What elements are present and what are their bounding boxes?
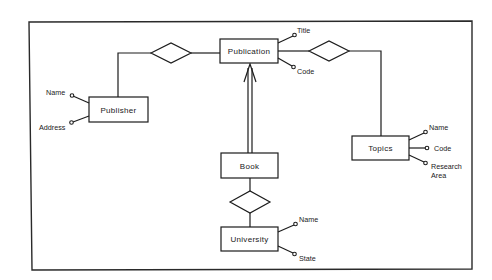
entity-label: Book <box>240 162 260 171</box>
entity-label: University <box>230 235 268 244</box>
attribute-code: Code <box>297 67 314 76</box>
attribute-title: Title <box>297 26 310 35</box>
relationship-diamond <box>230 191 270 213</box>
attribute-name: Name <box>429 123 448 132</box>
attribute-research-area: Research <box>431 162 462 171</box>
attribute-code: Code <box>434 144 451 153</box>
attribute-state: State <box>299 254 316 263</box>
relationship-diamond <box>309 41 349 61</box>
er-diagram: Publisher Name Address Publication Title… <box>0 0 492 280</box>
attribute-name: Name <box>299 215 318 224</box>
isa-book-publication <box>244 64 256 153</box>
relationship-book-university <box>230 178 270 227</box>
relationship-publisher-publication <box>118 43 220 97</box>
entity-topics: Topics Name Code Research Area <box>352 123 462 180</box>
entity-university: University Name State <box>221 215 318 263</box>
entity-label: Publisher <box>100 106 136 115</box>
entity-book: Book <box>221 153 278 178</box>
entity-label: Publication <box>228 47 270 56</box>
relationship-diamond <box>151 43 191 63</box>
entity-label: Topics <box>368 144 392 153</box>
attribute-research-area-line2: Area <box>431 171 446 180</box>
attribute-address: Address <box>39 123 66 132</box>
entity-publisher: Publisher Name Address <box>39 88 148 132</box>
attribute-name: Name <box>46 88 65 97</box>
relationship-publication-topics <box>278 41 381 136</box>
